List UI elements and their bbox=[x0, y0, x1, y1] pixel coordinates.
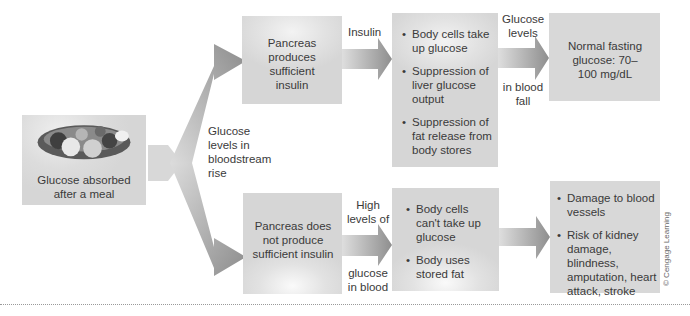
pancreas-insufficient-label: Pancreas does not produce sufficient ins… bbox=[249, 219, 337, 261]
effect-item: Body cells take up glucose bbox=[402, 27, 494, 55]
glucose-fall-arrow bbox=[498, 36, 549, 80]
glucose-levels-label: Glucose levels bbox=[502, 12, 544, 40]
no-insulin-effects-list: Body cells can't take up glucose Body us… bbox=[406, 202, 490, 290]
insulin-effects-list: Body cells take up glucose Suppression o… bbox=[402, 27, 494, 166]
complications-list: Damage to blood vessels Risk of kidney d… bbox=[557, 191, 659, 307]
complication-item: Risk of kidney damage, blindness, amputa… bbox=[557, 228, 659, 298]
bottom-divider bbox=[0, 304, 690, 305]
branch-label: Glucose levels in bloodstream rise bbox=[208, 124, 278, 180]
normal-glucose-label: Normal fasting glucose: 70–100 mg/dL bbox=[563, 39, 647, 81]
in-blood-fall-label: in blood fall bbox=[502, 80, 544, 108]
effect-item: Suppression of liver glucose output bbox=[402, 64, 494, 106]
start-label: Glucose absorbed after a meal bbox=[30, 173, 138, 201]
effect-item: Body cells can't take up glucose bbox=[406, 202, 490, 244]
complication-item: Damage to blood vessels bbox=[557, 191, 659, 219]
meal-food-icon bbox=[24, 119, 144, 167]
pancreas-insufficient-box: Pancreas does not produce sufficient ins… bbox=[243, 193, 342, 294]
no-insulin-effects-box: Body cells can't take up glucose Body us… bbox=[392, 188, 499, 291]
high-levels-label: High levels of bbox=[346, 198, 390, 226]
insulin-effects-box: Body cells take up glucose Suppression o… bbox=[392, 13, 498, 167]
start-box: Glucose absorbed after a meal bbox=[22, 115, 146, 205]
glucose-in-blood-label: glucose in blood bbox=[346, 266, 390, 294]
complications-box: Damage to blood vessels Risk of kidney d… bbox=[550, 181, 660, 293]
insulin-label: Insulin bbox=[348, 25, 381, 39]
copyright-credit: © Cengage Learning bbox=[662, 212, 671, 286]
high-glucose-arrow bbox=[342, 224, 392, 266]
pancreas-sufficient-label: Pancreas produces sufficient insulin bbox=[260, 36, 324, 92]
effect-item: Body uses stored fat bbox=[406, 253, 490, 281]
pancreas-sufficient-box: Pancreas produces sufficient insulin bbox=[242, 16, 342, 104]
normal-glucose-box: Normal fasting glucose: 70–100 mg/dL bbox=[549, 13, 660, 101]
complications-arrow bbox=[499, 216, 550, 259]
effect-item: Suppression of fat release from body sto… bbox=[402, 115, 494, 157]
insulin-arrow bbox=[342, 38, 392, 80]
